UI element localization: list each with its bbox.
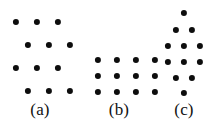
lattice-dot (34, 65, 40, 71)
lattice-dot (67, 42, 73, 48)
lattice-dot (46, 88, 52, 94)
lattice-dot (197, 43, 203, 49)
lattice-dot (181, 90, 187, 96)
lattice-dot (152, 57, 158, 63)
lattice-dot (55, 65, 61, 71)
lattice-dot (55, 19, 61, 25)
dot-group-c (0, 0, 212, 125)
lattice-dot (13, 65, 19, 71)
lattice-dot (181, 43, 187, 49)
figure-label-b: (b) (109, 101, 129, 118)
lattice-dot (67, 88, 73, 94)
lattice-dot (165, 59, 171, 65)
lattice-dot (197, 59, 203, 65)
figure-panel: (a)(b)(c) (0, 0, 212, 125)
lattice-dot (152, 89, 158, 95)
lattice-dot (152, 73, 158, 79)
lattice-dot (181, 59, 187, 65)
dot-group-b (0, 0, 212, 125)
lattice-dot (133, 73, 139, 79)
figure-label-c: (c) (174, 101, 193, 118)
lattice-dot (189, 27, 195, 33)
dot-lattice-figure: (a)(b)(c) (0, 0, 212, 125)
lattice-dot (173, 75, 179, 81)
dot-group-a (0, 0, 212, 125)
lattice-dot (95, 73, 101, 79)
lattice-dot (114, 89, 120, 95)
lattice-dot (133, 57, 139, 63)
lattice-dot (95, 89, 101, 95)
lattice-dot (25, 42, 31, 48)
lattice-dot (13, 19, 19, 25)
lattice-dot (181, 10, 187, 16)
lattice-dot (133, 89, 139, 95)
lattice-dot (25, 88, 31, 94)
lattice-dot (114, 73, 120, 79)
lattice-dot (165, 43, 171, 49)
figure-label-a: (a) (30, 101, 49, 118)
lattice-dot (189, 75, 195, 81)
lattice-dot (46, 42, 52, 48)
lattice-dot (95, 57, 101, 63)
lattice-dot (34, 19, 40, 25)
lattice-dot (173, 27, 179, 33)
lattice-dot (114, 57, 120, 63)
